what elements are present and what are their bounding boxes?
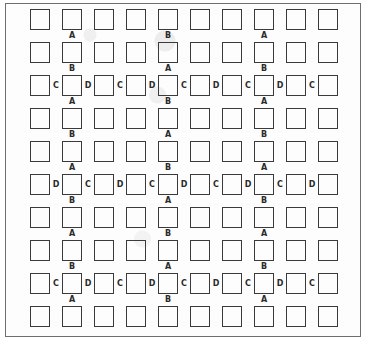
grid-cell — [190, 75, 210, 96]
grid-cell — [94, 240, 114, 261]
grid-cell — [94, 75, 114, 96]
row-gap-label: A — [67, 164, 77, 172]
grid-cell — [126, 42, 146, 63]
grid-cell — [318, 108, 338, 129]
grid-cell — [62, 75, 82, 96]
grid-cell — [30, 75, 50, 96]
grid-cell — [62, 141, 82, 162]
grid-cell — [158, 42, 178, 63]
grid-cell — [254, 42, 274, 63]
row-gap-label: A — [259, 32, 269, 40]
grid-cell — [94, 42, 114, 63]
row-gap-label: B — [67, 197, 77, 205]
grid-cell — [190, 108, 210, 129]
grid-cell — [126, 207, 146, 228]
row-gap-label: A — [259, 230, 269, 238]
row-gap-label: A — [67, 98, 77, 106]
grid-cell — [254, 240, 274, 261]
grid-cell — [158, 75, 178, 96]
grid-cell — [286, 42, 306, 63]
grid-cell — [318, 75, 338, 96]
row-gap-label: B — [163, 164, 173, 172]
row-gap-label: A — [163, 65, 173, 73]
col-gap-label: C — [51, 82, 61, 90]
grid-cell — [318, 9, 338, 30]
grid-cell — [126, 273, 146, 294]
grid-cell — [158, 306, 178, 327]
grid-cell — [190, 174, 210, 195]
grid-cell — [222, 240, 242, 261]
col-gap-label: D — [211, 280, 221, 288]
col-gap-label: D — [51, 181, 61, 189]
grid-cell — [126, 240, 146, 261]
grid-cell — [126, 9, 146, 30]
row-gap-label: A — [163, 263, 173, 271]
grid-cell — [62, 108, 82, 129]
col-gap-label: C — [51, 280, 61, 288]
col-gap-label: D — [243, 181, 253, 189]
grid-cell — [30, 306, 50, 327]
col-gap-label: C — [275, 181, 285, 189]
grid-cell — [62, 9, 82, 30]
grid-cell — [286, 75, 306, 96]
col-gap-label: C — [115, 280, 125, 288]
grid-cell — [94, 273, 114, 294]
row-gap-label: A — [67, 296, 77, 304]
grid-cell — [30, 42, 50, 63]
grid-cell — [30, 141, 50, 162]
col-gap-label: D — [147, 280, 157, 288]
col-gap-label: D — [83, 82, 93, 90]
col-gap-label: D — [83, 280, 93, 288]
grid-cell — [222, 273, 242, 294]
grid-cell — [286, 207, 306, 228]
grid-cell — [318, 42, 338, 63]
grid-cell — [158, 141, 178, 162]
grid-cell — [318, 306, 338, 327]
grid-cell — [94, 141, 114, 162]
grid-cell — [254, 108, 274, 129]
grid-cell — [318, 141, 338, 162]
col-gap-label: C — [179, 280, 189, 288]
grid-cell — [126, 141, 146, 162]
row-gap-label: A — [67, 230, 77, 238]
grid-cell — [318, 273, 338, 294]
grid-cell — [62, 207, 82, 228]
row-gap-label: B — [259, 197, 269, 205]
grid-cell — [190, 141, 210, 162]
grid-cell — [94, 306, 114, 327]
row-gap-label: B — [163, 98, 173, 106]
grid-cell — [94, 108, 114, 129]
grid-cell — [286, 141, 306, 162]
grid-cell — [158, 240, 178, 261]
row-gap-label: A — [259, 164, 269, 172]
grid-cell — [222, 141, 242, 162]
grid-cell — [254, 207, 274, 228]
row-gap-label: A — [163, 131, 173, 139]
row-gap-label: B — [67, 131, 77, 139]
grid-cell — [158, 174, 178, 195]
col-gap-label: C — [83, 181, 93, 189]
col-gap-label: C — [147, 181, 157, 189]
grid-cell — [30, 240, 50, 261]
grid-cell — [222, 75, 242, 96]
grid-cell — [30, 108, 50, 129]
row-gap-label: A — [259, 296, 269, 304]
grid-cell — [190, 42, 210, 63]
grid-cell — [254, 174, 274, 195]
grid-cell — [286, 240, 306, 261]
grid-cell — [158, 108, 178, 129]
grid-cell — [190, 207, 210, 228]
grid-cell — [318, 240, 338, 261]
col-gap-label: D — [147, 82, 157, 90]
grid-cell — [158, 9, 178, 30]
grid-cell — [62, 240, 82, 261]
grid-cell — [190, 240, 210, 261]
col-gap-label: D — [115, 181, 125, 189]
grid-cell — [158, 273, 178, 294]
row-gap-label: B — [163, 296, 173, 304]
col-gap-label: D — [307, 181, 317, 189]
col-gap-label: C — [211, 181, 221, 189]
grid-cell — [222, 306, 242, 327]
grid-cell — [222, 207, 242, 228]
row-gap-label: B — [67, 65, 77, 73]
